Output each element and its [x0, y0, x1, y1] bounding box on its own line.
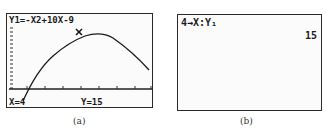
x-readout: X=4: [9, 98, 25, 107]
graph-screen: Y1=-X2+10X-9 X=4 Y=15: [6, 13, 153, 108]
result-value: 15: [305, 31, 317, 41]
graph-plot: [7, 14, 154, 109]
trace-cursor-icon: [76, 29, 82, 35]
y-readout: Y=15: [81, 98, 103, 107]
command-line: 4→X:Y₁: [181, 18, 217, 28]
parabola-curve: [23, 34, 149, 101]
home-screen: 4→X:Y₁ 15: [177, 14, 322, 111]
caption-a: (a): [73, 116, 85, 126]
caption-b: (b): [240, 116, 253, 126]
equation-label: Y1=-X2+10X-9: [9, 16, 74, 25]
